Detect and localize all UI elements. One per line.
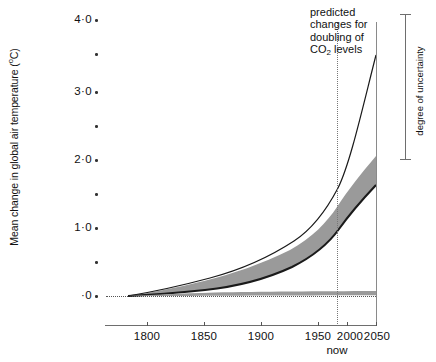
x-tick-mark-1950: [318, 322, 319, 326]
x-tick-label-1900: 1900: [236, 330, 286, 342]
uncertainty-bracket-bottom-cap: [400, 159, 411, 160]
levels-text: levels: [331, 43, 362, 55]
x-axis-line: [105, 325, 376, 326]
x-tick-label-1800: 1800: [122, 330, 172, 342]
uncertainty-bracket-top-cap: [400, 14, 411, 15]
x-tick-mark-1900: [261, 322, 262, 326]
x-tick-label-1850: 1850: [179, 330, 229, 342]
x-tick-mark-1850: [204, 322, 205, 326]
x-tick-mark-2000: [347, 322, 348, 326]
predicted-changes-annotation: predicted changes for doubling of CO2 le…: [310, 6, 380, 60]
annotation-line-3: doubling of: [310, 31, 380, 43]
co2-text: CO: [310, 43, 327, 55]
x-tick-mark-2050: [376, 322, 377, 326]
annotation-line-1: predicted: [310, 6, 380, 18]
uncertainty-label: degree of uncertainty: [414, 36, 425, 146]
now-label: now: [312, 344, 362, 356]
annotation-line-4: CO2 levels: [310, 43, 380, 59]
plot-right-frame: [376, 22, 377, 326]
series-high-estimate: [128, 55, 376, 296]
uncertainty-bracket: [405, 14, 406, 160]
climate-projection-chart: Mean change in global air temperature (o…: [0, 0, 436, 362]
annotation-line-2: changes for: [310, 18, 380, 30]
x-tick-mark-1800: [147, 322, 148, 326]
x-tick-label-2050: 2050: [352, 330, 402, 342]
series-mid-band: [128, 156, 376, 296]
now-reference-line: [337, 22, 338, 326]
